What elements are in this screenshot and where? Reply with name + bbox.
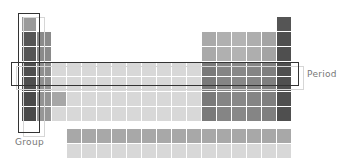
element-cell xyxy=(202,92,216,106)
element-cell xyxy=(157,107,171,121)
element-cell xyxy=(67,144,81,158)
element-cell xyxy=(112,107,126,121)
element-cell xyxy=(172,144,186,158)
element-cell xyxy=(187,129,201,143)
element-cell xyxy=(262,32,276,46)
element-cell xyxy=(97,107,111,121)
element-cell xyxy=(187,144,201,158)
element-cell xyxy=(67,92,81,106)
element-cell xyxy=(277,107,291,121)
element-cell xyxy=(262,47,276,61)
element-cell xyxy=(157,92,171,106)
element-cell xyxy=(157,144,171,158)
period-label: Period xyxy=(307,69,337,79)
element-cell xyxy=(217,92,231,106)
element-cell xyxy=(112,92,126,106)
element-cell xyxy=(247,129,261,143)
element-cell xyxy=(142,107,156,121)
element-cell xyxy=(262,92,276,106)
period-highlight-box xyxy=(11,62,299,86)
element-cell xyxy=(217,32,231,46)
element-cell xyxy=(232,144,246,158)
element-cell xyxy=(232,47,246,61)
element-cell xyxy=(97,129,111,143)
element-cell xyxy=(142,92,156,106)
element-cell xyxy=(127,144,141,158)
element-cell xyxy=(112,144,126,158)
element-cell xyxy=(277,32,291,46)
element-cell xyxy=(52,107,66,121)
element-cell xyxy=(142,129,156,143)
element-cell xyxy=(232,107,246,121)
element-cell xyxy=(82,107,96,121)
element-cell xyxy=(127,129,141,143)
element-cell xyxy=(202,32,216,46)
element-cell xyxy=(187,107,201,121)
element-cell xyxy=(172,107,186,121)
element-cell xyxy=(82,144,96,158)
element-cell xyxy=(262,144,276,158)
element-cell xyxy=(202,107,216,121)
element-cell xyxy=(142,144,156,158)
element-cell xyxy=(232,92,246,106)
element-cell xyxy=(67,107,81,121)
element-cell xyxy=(277,47,291,61)
element-cell xyxy=(172,92,186,106)
element-cell xyxy=(157,129,171,143)
element-cell xyxy=(247,144,261,158)
element-cell xyxy=(202,144,216,158)
element-cell xyxy=(232,129,246,143)
element-cell xyxy=(67,129,81,143)
element-cell xyxy=(247,92,261,106)
element-cell xyxy=(247,107,261,121)
element-cell xyxy=(277,129,291,143)
element-cell xyxy=(217,129,231,143)
element-cell xyxy=(247,32,261,46)
element-cell xyxy=(187,92,201,106)
element-cell xyxy=(262,107,276,121)
element-cell xyxy=(232,32,246,46)
element-cell xyxy=(217,107,231,121)
element-cell xyxy=(277,144,291,158)
element-cell xyxy=(97,144,111,158)
group-label: Group xyxy=(15,137,44,147)
element-cell xyxy=(217,144,231,158)
element-cell xyxy=(52,92,66,106)
element-cell xyxy=(247,47,261,61)
element-cell xyxy=(277,92,291,106)
element-cell xyxy=(112,129,126,143)
element-cell xyxy=(82,129,96,143)
element-cell xyxy=(172,129,186,143)
element-cell xyxy=(127,92,141,106)
element-cell xyxy=(277,17,291,31)
element-cell xyxy=(82,92,96,106)
element-cell xyxy=(202,47,216,61)
element-cell xyxy=(202,129,216,143)
element-cell xyxy=(262,129,276,143)
element-cell xyxy=(97,92,111,106)
element-cell xyxy=(217,47,231,61)
element-cell xyxy=(127,107,141,121)
